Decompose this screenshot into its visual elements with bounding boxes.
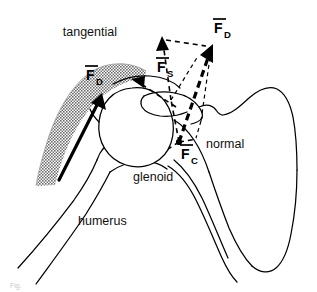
label-normal: normal [206,137,244,151]
vector-label-fs: F S [156,58,173,79]
vector-label-fc-sub: C [191,155,198,166]
vector-label-fc: F C [180,145,198,166]
vector-label-fd-deltoid-base: F [86,67,95,83]
label-tangential: tangential [63,25,117,39]
vector-label-fd-resultant-base: F [214,20,223,36]
vector-label-fd-deltoid-sub: D [96,76,103,87]
label-glenoid: glenoid [133,170,173,184]
vector-label-fs-base: F [157,59,166,75]
diagram-canvas: tangential normal glenoid humerus F D F … [0,0,317,292]
label-humerus: humerus [78,214,127,228]
vector-label-fd-resultant-sub: D [224,29,231,40]
vector-label-fs-sub: S [167,68,173,79]
figure-caption-ghost: Fig. [10,282,22,290]
vector-label-fd-resultant: F D [213,19,231,40]
shoulder-force-diagram: tangential normal glenoid humerus F D F … [0,0,317,292]
vector-label-fc-base: F [181,146,190,162]
